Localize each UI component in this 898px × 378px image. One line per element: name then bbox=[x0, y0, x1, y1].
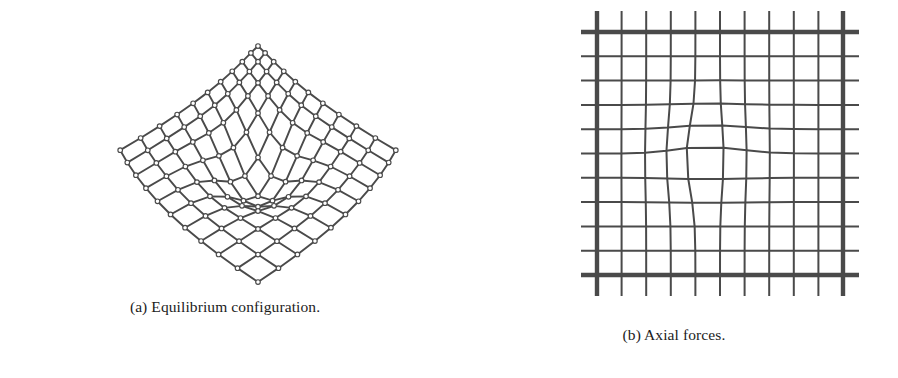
equilibrium-configuration-plot bbox=[0, 0, 450, 290]
caption-subfigure-b: (b) Axial forces. bbox=[450, 326, 898, 344]
axial-forces-plot bbox=[450, 0, 898, 310]
subfigure-a: (a) Equilibrium configuration. bbox=[0, 0, 450, 378]
caption-subfigure-a: (a) Equilibrium configuration. bbox=[0, 298, 450, 316]
subfigure-b: (b) Axial forces. bbox=[450, 0, 898, 378]
figure-container: (a) Equilibrium configuration. (b) Axial… bbox=[0, 0, 898, 378]
force-members bbox=[581, 11, 859, 296]
joint-nodes bbox=[118, 44, 398, 285]
